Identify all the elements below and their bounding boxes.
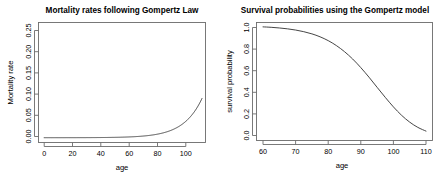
x-tick-label-left-4: 80 xyxy=(154,149,162,158)
x-tick-label-left-1: 20 xyxy=(69,149,77,158)
x-tick-label-right-2: 80 xyxy=(324,147,332,156)
plot-title-right: Survival probabilities using the Gompert… xyxy=(241,6,429,15)
x-tick-label-right-0: 60 xyxy=(259,147,267,156)
y-tick-label-right-1: 0.2 xyxy=(242,109,251,119)
y-axis-right: 0.0 0.2 0.4 0.6 0.8 1.0 xyxy=(242,23,257,141)
plot-title-left: Mortality rates following Gompertz Law xyxy=(46,6,199,15)
y-axis-left: 0.00 0.05 0.10 0.15 0.20 0.25 xyxy=(24,24,39,144)
x-tick-label-left-0: 0 xyxy=(42,149,46,158)
panel-mortality-rates: Mortality rates following Gompertz Law 0… xyxy=(0,0,222,178)
x-axis-left: 0 20 40 60 80 100 xyxy=(42,143,192,159)
y-tick-label-left-4: 0.20 xyxy=(24,45,33,59)
y-tick-label-left-1: 0.05 xyxy=(24,108,33,122)
x-tick-label-right-1: 70 xyxy=(292,147,300,156)
y-tick-label-left-2: 0.10 xyxy=(24,87,33,101)
x-tick-label-right-4: 100 xyxy=(387,147,399,156)
y-tick-label-right-2: 0.4 xyxy=(242,87,251,97)
y-tick-label-left-5: 0.25 xyxy=(24,24,33,38)
mortality-rate-curve xyxy=(44,99,202,138)
y-tick-label-right-3: 0.6 xyxy=(242,66,251,76)
y-tick-label-right-4: 0.8 xyxy=(242,44,251,54)
x-tick-label-left-2: 40 xyxy=(97,149,105,158)
y-tick-label-right-0: 0.0 xyxy=(242,131,251,141)
survival-probability-curve xyxy=(263,27,426,131)
y-tick-label-right-5: 1.0 xyxy=(242,23,251,33)
panel-survival-probabilities: Survival probabilities using the Gompert… xyxy=(222,0,444,178)
plot-frame-left xyxy=(39,23,206,143)
gompertz-figure: Mortality rates following Gompertz Law 0… xyxy=(0,0,444,178)
x-axis-right: 60 70 80 90 100 110 xyxy=(259,141,432,157)
x-axis-title-left: age xyxy=(116,163,129,172)
y-axis-title-right: survival probability xyxy=(225,50,234,113)
x-tick-label-left-3: 60 xyxy=(125,149,133,158)
x-tick-label-right-5: 110 xyxy=(420,147,431,156)
x-axis-title-right: age xyxy=(336,161,349,170)
y-tick-label-left-3: 0.15 xyxy=(24,66,33,80)
y-axis-title-left: Mortality rate xyxy=(6,61,15,105)
plot-frame-right xyxy=(257,23,433,141)
x-tick-label-left-5: 100 xyxy=(180,149,192,158)
y-tick-label-left-0: 0.00 xyxy=(24,130,33,144)
x-tick-label-right-3: 90 xyxy=(357,147,365,156)
